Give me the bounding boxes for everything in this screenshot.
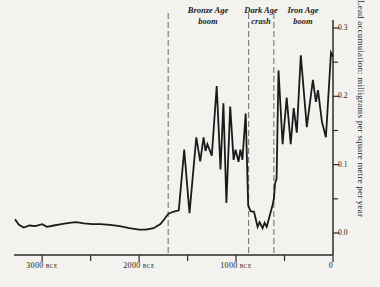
x-tick-label-3000-bce: 3000 BCE [17,261,67,270]
annotation-line1: Iron Age [268,5,338,16]
x-tick-label-2000-bce: 2000 BCE [114,261,164,270]
y-axis-title: Lead accumulation: milligrams per square… [356,0,366,287]
annotation-iron-age-boom: Iron Age boom [268,5,338,26]
y-tick-label-0-3: 0.3 [338,23,356,32]
lead-accumulation-chart: Bronze Age boom Dark Age crash Iron Age … [0,0,380,287]
y-tick-label-0-0: 0.0 [338,228,356,237]
chart-plot-area [0,0,380,287]
y-tick-label-0-1: 0.1 [338,160,356,169]
x-tick-label-1000-bce: 1000 BCE [211,261,261,270]
lead-accumulation-data-line [15,53,333,230]
x-tick-label-0: 0 [306,261,356,270]
y-tick-label-0-2: 0.2 [338,91,356,100]
annotation-line2: boom [268,16,338,27]
